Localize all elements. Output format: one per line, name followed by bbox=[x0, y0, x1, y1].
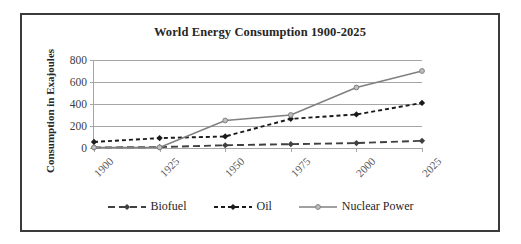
y-tick-label: 800 bbox=[70, 54, 87, 66]
data-point-marker bbox=[156, 135, 162, 141]
plot-area: 0200400600800 190019251950197520002025 bbox=[94, 60, 422, 148]
legend-label: Nuclear Power bbox=[342, 199, 414, 214]
chart-frame: World Energy Consumption 1900-2025 Consu… bbox=[20, 13, 500, 232]
series-oil bbox=[91, 100, 425, 145]
x-tick-mark bbox=[356, 148, 357, 152]
legend-swatch-diamond-icon bbox=[213, 202, 253, 212]
x-tick-label: 2000 bbox=[354, 155, 378, 179]
y-tick-label: 400 bbox=[70, 98, 87, 110]
x-tick-mark bbox=[225, 148, 226, 152]
legend-item-biofuel[interactable]: Biofuel bbox=[107, 199, 187, 214]
chart-title: World Energy Consumption 1900-2025 bbox=[22, 25, 498, 40]
x-tick-label: 1975 bbox=[288, 155, 312, 179]
data-point-marker bbox=[223, 118, 228, 123]
chart-canvas: World Energy Consumption 1900-2025 Consu… bbox=[22, 15, 498, 230]
legend-swatch-circle-icon bbox=[298, 202, 338, 212]
series-line bbox=[94, 103, 422, 142]
x-tick-mark bbox=[422, 148, 423, 152]
data-point-marker bbox=[288, 141, 294, 147]
y-tick-label: 0 bbox=[81, 142, 87, 154]
series-line bbox=[94, 71, 422, 147]
y-axis-title: Consumption in Exajoules bbox=[42, 43, 58, 178]
legend-label: Oil bbox=[257, 199, 272, 214]
x-tick-label: 1900 bbox=[91, 155, 115, 179]
data-point-marker bbox=[222, 133, 228, 139]
data-point-marker bbox=[353, 140, 359, 146]
x-tick-mark bbox=[291, 148, 292, 152]
x-tick-label: 1925 bbox=[157, 155, 181, 179]
data-point-marker bbox=[353, 111, 359, 117]
data-point-marker bbox=[288, 113, 293, 118]
legend-label: Biofuel bbox=[151, 199, 187, 214]
x-tick-label: 1950 bbox=[223, 155, 247, 179]
x-tick-label: 2025 bbox=[419, 155, 443, 179]
data-point-marker bbox=[419, 138, 425, 144]
data-point-marker bbox=[157, 145, 162, 150]
y-tick-label: 200 bbox=[70, 120, 87, 132]
data-point-marker bbox=[222, 142, 228, 148]
data-point-marker bbox=[420, 69, 425, 74]
series-overlay bbox=[94, 60, 422, 148]
series-nuclear-power bbox=[92, 69, 425, 150]
data-point-marker bbox=[354, 85, 359, 90]
y-axis-title-label: Consumption in Exajoules bbox=[44, 48, 56, 172]
data-point-marker bbox=[419, 100, 425, 106]
y-tick-label: 600 bbox=[70, 76, 87, 88]
chart-legend: BiofuelOilNuclear Power bbox=[22, 199, 498, 214]
data-point-marker bbox=[92, 145, 97, 150]
data-point-marker bbox=[91, 139, 97, 145]
series-line bbox=[94, 141, 422, 148]
legend-swatch-diamond-icon bbox=[107, 202, 147, 212]
legend-item-nuclear-power[interactable]: Nuclear Power bbox=[298, 199, 414, 214]
legend-item-oil[interactable]: Oil bbox=[213, 199, 272, 214]
